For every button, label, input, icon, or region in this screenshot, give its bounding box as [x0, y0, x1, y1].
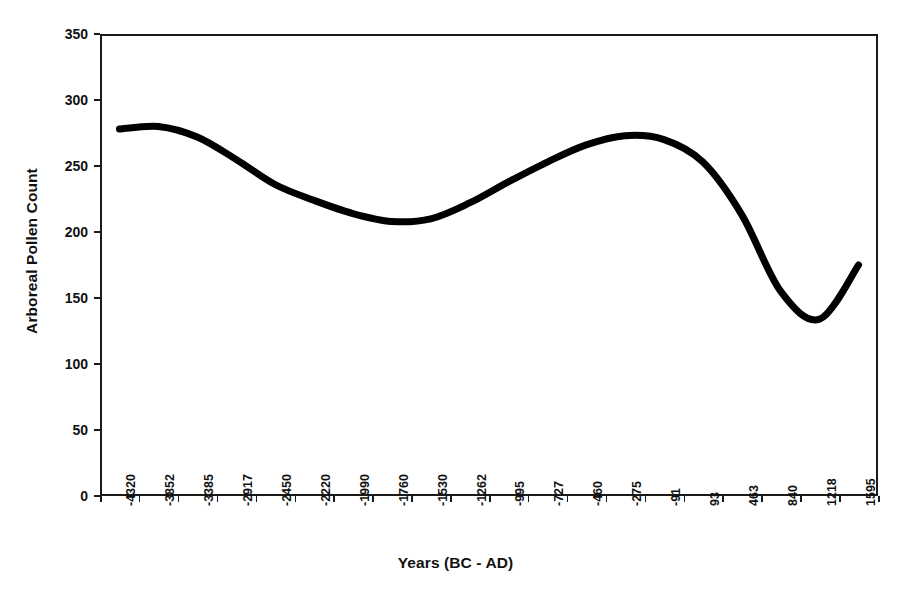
x-axis-title: Years (BC - AD)	[0, 554, 911, 572]
series-line-arboreal-pollen-count	[119, 126, 858, 320]
series-line-layer	[0, 0, 911, 597]
pollen-count-chart: Arboreal Pollen Count 050100150200250300…	[0, 0, 911, 597]
